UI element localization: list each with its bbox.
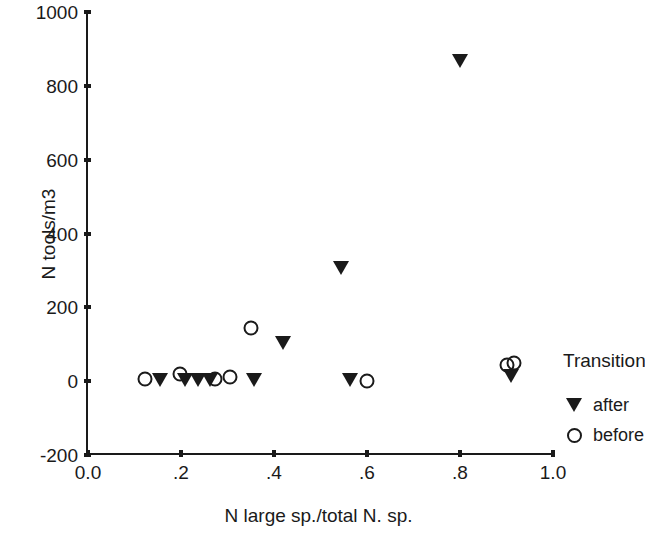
data-point-after <box>342 373 358 387</box>
x-axis-title: N large sp./total N. sp. <box>86 505 551 527</box>
x-axis-tick-label: .4 <box>266 463 282 482</box>
data-point-after <box>452 54 468 68</box>
y-axis-tick <box>84 305 91 309</box>
x-axis-tick-label: 1.0 <box>540 463 566 482</box>
x-axis-tick <box>458 450 462 457</box>
legend-title: Transition <box>563 350 645 372</box>
x-axis-tick <box>365 450 369 457</box>
data-point-after <box>333 261 349 275</box>
circle-icon <box>563 428 585 443</box>
y-axis-tick-label: 800 <box>46 76 78 95</box>
legend-entry-label: after <box>593 395 629 416</box>
legend-entry-after: after <box>563 390 645 420</box>
y-axis-tick <box>84 232 91 236</box>
y-axis-tick-label: 200 <box>46 298 78 317</box>
legend: Transition afterbefore <box>563 350 645 450</box>
data-point-before <box>222 370 237 385</box>
plot-area: -200020040060080010000.0.2.4.6.81.0 <box>86 12 551 455</box>
data-point-before <box>243 320 258 335</box>
y-axis-tick-label: 400 <box>46 224 78 243</box>
y-axis-tick <box>84 379 91 383</box>
y-axis-tick <box>84 10 91 14</box>
legend-entry-label: before <box>593 425 644 446</box>
x-axis-tick-label: 0.0 <box>75 463 101 482</box>
y-axis-tick <box>84 158 91 162</box>
y-axis-tick <box>84 84 91 88</box>
data-point-after <box>246 373 262 387</box>
legend-entry-list: afterbefore <box>563 390 645 450</box>
triangle-icon <box>563 398 585 412</box>
x-axis-tick-label: .2 <box>173 463 189 482</box>
data-point-after <box>275 336 291 350</box>
data-point-before <box>173 366 188 381</box>
x-axis-tick-label: .8 <box>452 463 468 482</box>
y-axis-tick-label: 600 <box>46 150 78 169</box>
x-axis-tick-label: .6 <box>359 463 375 482</box>
legend-entry-before: before <box>563 420 645 450</box>
x-axis-tick <box>551 450 555 457</box>
y-axis-tick-label: 1000 <box>36 3 78 22</box>
data-point-before <box>506 355 521 370</box>
x-axis-tick <box>86 450 90 457</box>
y-axis-tick-label: -200 <box>40 446 78 465</box>
data-point-before <box>138 372 153 387</box>
scatter-chart-figure: N tools/m3 -200020040060080010000.0.2.4.… <box>0 0 645 540</box>
x-axis-tick <box>272 450 276 457</box>
data-point-before <box>207 372 222 387</box>
y-axis-tick-label: 0 <box>67 372 78 391</box>
data-point-before <box>360 374 375 389</box>
x-axis-tick <box>179 450 183 457</box>
data-point-after <box>152 373 168 387</box>
